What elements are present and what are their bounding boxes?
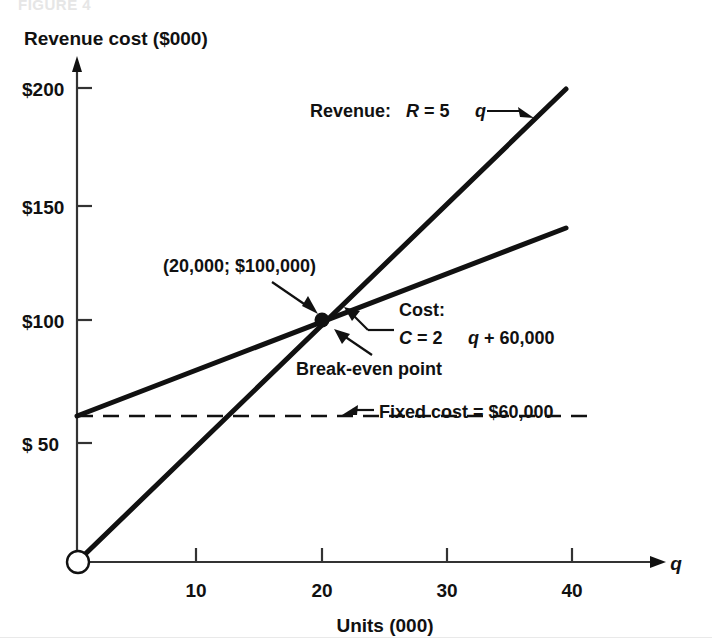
x-tick-label-10: 10 bbox=[185, 580, 206, 601]
break-even-dot-marker bbox=[315, 313, 330, 328]
break-even-chart: Revenue cost ($000) $200 $150 $100 $ 50 bbox=[0, 0, 712, 642]
fixed-cost-leader-arrowhead bbox=[342, 405, 358, 415]
x-tick-label-40: 40 bbox=[561, 580, 582, 601]
revenue-annotation-variable: R bbox=[406, 101, 419, 121]
revenue-annotation-prefix: Revenue: bbox=[310, 101, 391, 121]
cost-annotation-q: q bbox=[468, 328, 479, 348]
axes bbox=[72, 56, 666, 568]
revenue-annotation-q: q bbox=[475, 101, 486, 121]
x-axis-title: Units (000) bbox=[336, 615, 433, 636]
cost-annotation: Cost: C = 2 q + 60,000 bbox=[344, 300, 555, 348]
y-tick-label-150: $150 bbox=[22, 197, 64, 218]
y-axis-ticks bbox=[77, 88, 92, 443]
revenue-annotation-equals: = 5 bbox=[424, 101, 450, 121]
cost-annotation-prefix: Cost: bbox=[399, 300, 445, 320]
x-axis-arrowhead bbox=[650, 556, 666, 568]
cost-annotation-variable: C bbox=[399, 328, 413, 348]
fixed-cost-annotation: Fixed cost = $60,000 bbox=[342, 402, 554, 422]
y-axis-arrowhead bbox=[72, 56, 82, 72]
y-tick-label-100: $100 bbox=[22, 311, 64, 332]
origin-circle-marker bbox=[67, 551, 89, 573]
y-axis-title: Revenue cost ($000) bbox=[24, 28, 208, 49]
x-axis-ticks bbox=[196, 548, 572, 562]
breakeven-coords-annotation: (20,000; $100,000) bbox=[163, 256, 318, 314]
x-axis-tick-labels: 10 20 30 40 bbox=[185, 580, 582, 601]
x-axis-variable-label: q bbox=[670, 553, 682, 574]
figure-container: FIGURE 4 Revenue cost ($000) $200 $150 $… bbox=[0, 0, 712, 642]
revenue-annotation: Revenue: R = 5 q bbox=[310, 101, 534, 121]
breakeven-point-leader-line bbox=[344, 336, 372, 355]
breakeven-point-leader-arrowhead bbox=[334, 329, 350, 344]
bottom-divider bbox=[0, 637, 712, 638]
y-tick-label-50: $ 50 bbox=[22, 434, 59, 455]
breakeven-point-label: Break-even point bbox=[296, 359, 442, 379]
y-axis-tick-labels: $200 $150 $100 $ 50 bbox=[22, 79, 64, 455]
breakeven-coords-leader-arrowhead bbox=[302, 296, 318, 314]
cost-annotation-equals: = 2 bbox=[417, 328, 443, 348]
breakeven-coords-label: (20,000; $100,000) bbox=[163, 256, 316, 276]
fixed-cost-label: Fixed cost = $60,000 bbox=[379, 402, 554, 422]
cost-annotation-tail: + 60,000 bbox=[484, 328, 555, 348]
revenue-leader-arrowhead bbox=[518, 107, 534, 118]
x-tick-label-20: 20 bbox=[311, 580, 332, 601]
x-tick-label-30: 30 bbox=[436, 580, 457, 601]
y-tick-label-200: $200 bbox=[22, 79, 64, 100]
